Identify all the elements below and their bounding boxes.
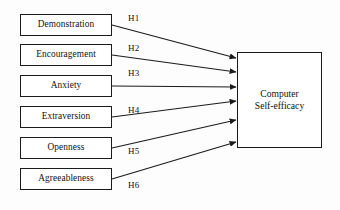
path-arrow-h5 <box>112 120 236 148</box>
predictor-node-demonstration: Demonstration <box>20 14 112 36</box>
path-arrow-h3 <box>112 86 236 87</box>
predictor-node-anxiety: Anxiety <box>20 75 112 97</box>
predictor-label: Agreeableness <box>38 174 94 184</box>
hypothesis-label-h5: H5 <box>128 146 139 156</box>
predictor-node-openness: Openness <box>20 137 112 159</box>
path-model-diagram: DemonstrationEncouragementAnxietyExtrave… <box>0 0 340 210</box>
outcome-label-line-2: Self-efficacy <box>255 100 304 112</box>
outcome-label-line-1: Computer <box>260 88 298 100</box>
predictor-node-extraversion: Extraversion <box>20 106 112 128</box>
hypothesis-label-h4: H4 <box>128 105 139 115</box>
hypothesis-label-h2: H2 <box>128 43 139 53</box>
predictor-label: Encouragement <box>36 50 96 60</box>
outcome-node-computer-self-efficacy: Computer Self-efficacy <box>237 52 322 148</box>
hypothesis-label-h6: H6 <box>128 180 139 190</box>
predictor-node-agreeableness: Agreeableness <box>20 168 112 190</box>
hypothesis-label-h3: H3 <box>128 68 139 78</box>
predictor-label: Extraversion <box>42 112 91 122</box>
hypothesis-label-h1: H1 <box>128 13 139 23</box>
predictor-label: Demonstration <box>38 20 95 30</box>
predictor-node-encouragement: Encouragement <box>20 44 112 66</box>
predictor-label: Anxiety <box>51 81 82 91</box>
predictor-label: Openness <box>48 143 85 153</box>
path-arrow-h1 <box>112 25 236 58</box>
